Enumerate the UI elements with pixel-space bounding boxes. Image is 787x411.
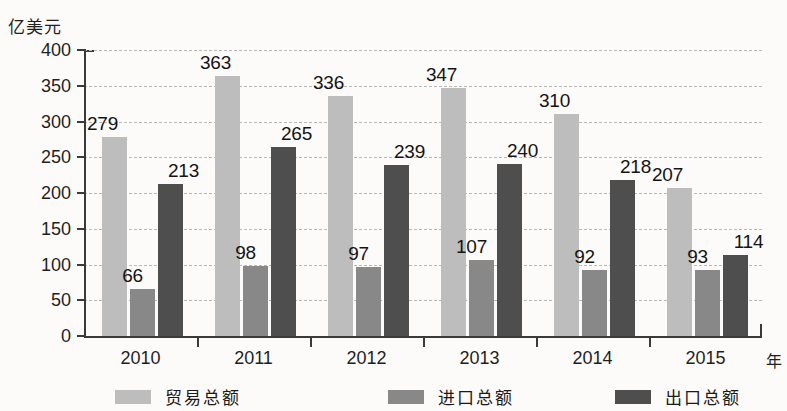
x-axis-tick: [536, 338, 538, 347]
y-axis-tick-label: 400: [41, 40, 71, 61]
y-axis-tick: [77, 192, 86, 194]
chart-page: 亿美元 050100150200250300350400 20102011201…: [0, 0, 787, 411]
y-axis-tick-label: 50: [51, 290, 71, 311]
y-axis-tick-label: 300: [41, 111, 71, 132]
y-axis-tick: [77, 299, 86, 301]
legend-swatch-icon: [615, 390, 651, 404]
bar-value-label: 336: [313, 72, 344, 94]
bar-value-label: 218: [620, 156, 651, 178]
legend-item[interactable]: 贸易总额: [115, 384, 241, 409]
bar: [582, 270, 607, 336]
bar-value-label: 114: [734, 231, 764, 253]
gridline: [84, 50, 762, 51]
x-axis-unit-label: 年: [766, 348, 782, 372]
legend-item[interactable]: 进口总额: [388, 384, 514, 409]
chart-legend: 贸易总额进口总额出口总额: [0, 380, 787, 408]
bar: [554, 114, 579, 336]
gridline: [84, 86, 762, 87]
legend-label: 出口总额: [665, 384, 741, 409]
bar-value-label: 279: [87, 113, 118, 135]
bar-value-label: 240: [507, 140, 538, 162]
y-axis-tick: [77, 49, 86, 51]
y-axis-tick: [77, 228, 86, 230]
gridline: [84, 122, 762, 123]
bar: [243, 266, 268, 336]
bar: [695, 270, 720, 336]
x-axis-tick: [310, 338, 312, 347]
y-axis-tick-label: 200: [41, 183, 71, 204]
bar-value-label: 310: [539, 90, 570, 112]
bar-value-label: 207: [652, 164, 683, 186]
bar: [723, 255, 748, 337]
x-axis-tick-label: 2012: [346, 348, 386, 369]
bar: [102, 137, 127, 336]
legend-label: 贸易总额: [165, 384, 241, 409]
bar: [158, 184, 183, 336]
legend-label: 进口总额: [438, 384, 514, 409]
bar: [384, 165, 409, 336]
x-axis-tick: [649, 338, 651, 347]
x-axis-tick: [423, 338, 425, 347]
bar-value-label: 97: [348, 243, 369, 265]
bar: [356, 267, 381, 336]
y-axis-tick-label: 250: [41, 147, 71, 168]
bar-value-label: 239: [394, 141, 425, 163]
x-axis-tick-label: 2014: [572, 348, 612, 369]
bar-value-label: 347: [426, 64, 457, 86]
bar: [215, 76, 240, 336]
plot-area: 050100150200250300350400 201020112012201…: [84, 50, 762, 338]
bar: [441, 88, 466, 336]
gridline: [84, 265, 762, 266]
y-axis-tick-label: 0: [61, 326, 71, 347]
bar: [610, 180, 635, 336]
bar: [497, 164, 522, 336]
axis-right-stub: [760, 324, 762, 338]
legend-item[interactable]: 出口总额: [615, 384, 741, 409]
x-axis-tick-label: 2011: [234, 348, 273, 369]
y-axis-tick: [77, 85, 86, 87]
legend-swatch-icon: [115, 390, 151, 404]
y-axis-tick-label: 350: [41, 75, 71, 96]
y-axis-line: [84, 50, 86, 338]
y-axis-tick: [77, 264, 86, 266]
bar: [130, 289, 155, 336]
bar-value-label: 265: [281, 123, 312, 145]
y-axis-tick: [77, 121, 86, 123]
bar: [469, 260, 494, 337]
bar-value-label: 107: [456, 236, 487, 258]
x-axis-tick-label: 2010: [120, 348, 160, 369]
bar-value-label: 93: [687, 246, 708, 268]
y-axis-tick: [77, 156, 86, 158]
y-axis-tick-label: 150: [41, 218, 71, 239]
y-axis-tick-label: 100: [41, 254, 71, 275]
gridline: [84, 193, 762, 194]
legend-swatch-icon: [388, 390, 424, 404]
y-axis-tick: [77, 335, 86, 337]
x-axis-tick-label: 2013: [459, 348, 499, 369]
bar-value-label: 98: [235, 242, 256, 264]
bar-value-label: 92: [574, 246, 595, 268]
bar: [328, 96, 353, 336]
gridline: [84, 300, 762, 301]
bar-value-label: 213: [168, 160, 199, 182]
x-axis-tick: [197, 338, 199, 347]
bar-value-label: 66: [122, 265, 143, 287]
y-axis-unit-label: 亿美元: [8, 13, 62, 38]
x-axis-tick-label: 2015: [685, 348, 725, 369]
bar: [271, 147, 296, 336]
bar-value-label: 363: [200, 52, 231, 74]
gridline: [84, 229, 762, 230]
